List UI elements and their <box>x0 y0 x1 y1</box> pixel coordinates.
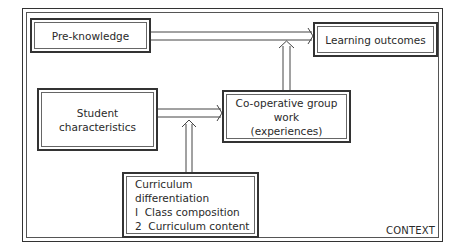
node-curriculum-title: Curriculum differentiation <box>135 177 254 205</box>
arrow-student-to-cooperative <box>157 105 222 121</box>
arrow-cooperative-to-outcomes <box>279 41 294 90</box>
arrow-curriculum-to-edge <box>182 120 196 172</box>
node-curriculum-item-2: 2 Curriculum content <box>135 219 249 233</box>
context-label: CONTEXT <box>386 225 435 236</box>
node-student-characteristics-line2: characteristics <box>59 120 136 134</box>
node-learning-outcomes: Learning outcomes <box>313 22 438 57</box>
node-student-characteristics-line1: Student <box>77 106 118 120</box>
node-learning-outcomes-label: Learning outcomes <box>325 33 425 47</box>
node-cooperative-line2: (experiences) <box>251 124 323 138</box>
node-curriculum-item-1: I Class composition <box>135 205 240 219</box>
node-cooperative-line1: Co-operative group work <box>227 96 346 124</box>
node-pre-knowledge: Pre-knowledge <box>30 18 151 53</box>
node-student-characteristics: Student characteristics <box>37 88 158 151</box>
node-cooperative-group-work: Co-operative group work (experiences) <box>222 90 351 143</box>
node-curriculum-differentiation: Curriculum differentiation I Class compo… <box>122 172 259 238</box>
node-pre-knowledge-label: Pre-knowledge <box>52 29 129 43</box>
arrow-preknowledge-to-outcomes <box>150 28 313 44</box>
